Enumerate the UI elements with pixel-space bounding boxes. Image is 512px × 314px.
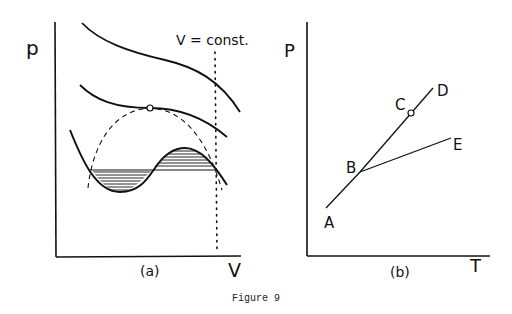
panel-a-label: (a) [140,263,160,279]
segment-b-e [360,138,451,172]
isotherm-critical [80,85,227,137]
point-d-label: D [437,82,449,100]
panel-a-x-axis-label: V [228,259,241,281]
point-a-label: A [324,214,335,232]
panel-a-y-axis-label: p [26,36,39,60]
point-c-label: C [395,96,405,114]
figure-9: p V (a) V = const. [0,0,512,314]
point-c-marker [408,110,414,116]
point-b-label: B [346,159,356,177]
point-e-label: E [453,136,462,154]
panel-a-y-axis [55,22,56,257]
maxwell-hatch-right [145,151,220,166]
panel-b-y-axis-label: P [284,40,295,61]
panel-b-label: (b) [390,264,410,280]
panel-a-x-axis [56,256,241,257]
constant-volume-annotation: V = const. [176,32,249,48]
panel-a: p V (a) V = const. [26,22,249,281]
critical-point-marker [147,105,153,111]
constant-volume-line [215,52,217,252]
panel-b: P T (b) A B C D E [284,22,490,280]
segment-a-b [326,172,360,208]
panel-b-x-axis-label: T [469,255,482,276]
figure-caption: Figure 9 [232,293,280,304]
